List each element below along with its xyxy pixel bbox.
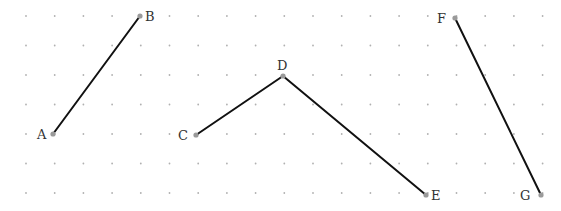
grid-dot	[111, 74, 113, 76]
grid-dot	[283, 163, 285, 165]
grid-dot	[140, 74, 142, 76]
grid-dot	[226, 133, 228, 135]
grid-dot	[255, 74, 257, 76]
grid-dot	[255, 133, 257, 135]
grid-dot	[111, 133, 113, 135]
point-c	[193, 132, 198, 137]
grid-dot	[25, 45, 27, 47]
grid-dot	[370, 15, 372, 17]
grid-dot	[197, 192, 199, 194]
grid-dot	[140, 133, 142, 135]
grid-dot	[341, 45, 343, 47]
grid-dot	[484, 45, 486, 47]
grid-dot	[312, 15, 314, 17]
point-d	[280, 73, 285, 78]
grid-dot	[513, 45, 515, 47]
grid-dot	[398, 133, 400, 135]
grid-dot	[25, 74, 27, 76]
grid-dot	[370, 133, 372, 135]
grid-dot	[398, 104, 400, 106]
grid-dot	[398, 74, 400, 76]
grid-dot	[226, 163, 228, 165]
point-label-f: F	[437, 11, 446, 26]
grid-dot	[456, 192, 458, 194]
grid-dot	[542, 45, 544, 47]
grid-dot	[83, 163, 85, 165]
grid-dot	[83, 45, 85, 47]
grid-dot	[484, 192, 486, 194]
grid-dot	[456, 163, 458, 165]
grid-dot	[513, 15, 515, 17]
grid-dot	[542, 133, 544, 135]
grid-dot	[484, 163, 486, 165]
grid-dot	[513, 133, 515, 135]
point-a	[50, 131, 55, 136]
grid-dot	[255, 163, 257, 165]
grid-dot	[169, 15, 171, 17]
grid-dot	[226, 74, 228, 76]
grid-dot	[169, 74, 171, 76]
grid-dot	[484, 15, 486, 17]
grid-dot	[341, 133, 343, 135]
segment-cd	[196, 76, 283, 135]
points	[50, 13, 543, 197]
grid-dot	[25, 163, 27, 165]
grid-dot	[312, 45, 314, 47]
grid-dot	[427, 15, 429, 17]
segment-ab	[53, 16, 140, 134]
grid-dot	[456, 133, 458, 135]
segment-fg	[455, 18, 541, 195]
point-f	[452, 15, 457, 20]
grid-dot	[398, 45, 400, 47]
grid-dot	[312, 192, 314, 194]
grid-dot	[83, 104, 85, 106]
grid-dot	[255, 104, 257, 106]
grid-dot	[226, 15, 228, 17]
grid-dot	[197, 163, 199, 165]
grid-dot	[197, 45, 199, 47]
grid-dot	[169, 104, 171, 106]
grid-dot	[255, 192, 257, 194]
grid-dot	[283, 104, 285, 106]
grid-dot	[513, 74, 515, 76]
grid-dot	[370, 192, 372, 194]
grid-dot	[398, 15, 400, 17]
grid-dot	[312, 74, 314, 76]
grid-dot	[54, 74, 56, 76]
grid-dot	[341, 163, 343, 165]
grid-dot	[83, 15, 85, 17]
grid-dot	[111, 45, 113, 47]
grid-dot	[54, 192, 56, 194]
grid-dot	[484, 74, 486, 76]
grid-dot	[427, 74, 429, 76]
grid-dot	[197, 104, 199, 106]
grid-dot	[484, 133, 486, 135]
point-labels: ABCDEFG	[36, 9, 530, 203]
grid-dot	[169, 163, 171, 165]
line-segments	[53, 16, 541, 195]
grid-dot	[54, 15, 56, 17]
grid-dot	[111, 15, 113, 17]
grid-dot	[140, 104, 142, 106]
grid-dot	[341, 104, 343, 106]
grid-dot	[341, 192, 343, 194]
grid-dot	[312, 133, 314, 135]
grid-dot	[456, 74, 458, 76]
grid-dot	[197, 74, 199, 76]
grid-dot	[513, 192, 515, 194]
grid-dot	[226, 45, 228, 47]
grid-dot	[83, 133, 85, 135]
segment-de	[283, 76, 426, 195]
point-label-b: B	[145, 9, 155, 24]
grid-dot	[255, 15, 257, 17]
grid-dot	[513, 104, 515, 106]
grid-dot	[25, 133, 27, 135]
grid-dot	[427, 45, 429, 47]
grid-dot	[54, 104, 56, 106]
point-label-c: C	[178, 128, 188, 143]
grid-dot	[169, 133, 171, 135]
dot-grid-diagram: ABCDEFG	[0, 0, 561, 211]
grid-dot	[341, 74, 343, 76]
point-label-d: D	[277, 58, 287, 73]
grid-dot	[427, 133, 429, 135]
